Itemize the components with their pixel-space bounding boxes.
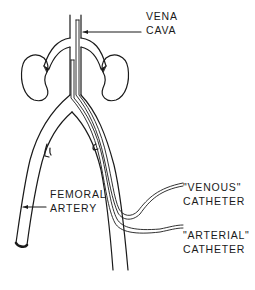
- vena-cava-label-line2: CAVA: [146, 23, 178, 37]
- femoral-artery-leader: [23, 205, 46, 209]
- vena-cava-label: VENA CAVA: [146, 9, 178, 37]
- right-femoral-branch: [72, 95, 128, 270]
- arterial-catheter-label-line2: CATHETER: [183, 242, 250, 256]
- arterial-catheter-label-line1: "ARTERIAL": [183, 228, 250, 242]
- left-femoral-branch: [16, 95, 72, 247]
- venous-catheter-label-line1: "VENOUS": [183, 180, 245, 194]
- venous-catheter-label: "VENOUS" CATHETER: [183, 180, 245, 208]
- femoral-artery-label-line2: ARTERY: [50, 201, 106, 215]
- femoral-artery-label-line1: FEMORAL: [50, 187, 106, 201]
- femoral-artery-label: FEMORAL ARTERY: [50, 187, 106, 215]
- venous-catheter-label-line2: CATHETER: [183, 194, 245, 208]
- right-kidney: [102, 55, 129, 101]
- left-kidney: [22, 55, 49, 101]
- vena-cava-leader: [83, 30, 141, 34]
- vena-cava-label-line1: VENA: [146, 9, 178, 23]
- arterial-catheter-label: "ARTERIAL" CATHETER: [183, 228, 250, 256]
